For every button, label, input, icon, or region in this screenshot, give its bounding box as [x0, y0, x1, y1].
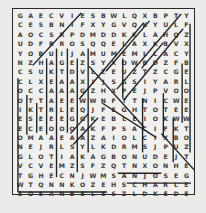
grid-letter[interactable]: K: [88, 124, 98, 133]
grid-letter[interactable]: N: [15, 142, 25, 151]
grid-letter[interactable]: E: [181, 67, 191, 76]
grid-letter[interactable]: V: [160, 86, 170, 95]
grid-letter[interactable]: O: [150, 171, 160, 180]
grid-letter[interactable]: H: [140, 180, 150, 189]
grid-letter[interactable]: Q: [98, 39, 108, 48]
grid-letter[interactable]: Q: [109, 161, 119, 170]
grid-letter[interactable]: B: [109, 152, 119, 161]
grid-letter[interactable]: E: [109, 105, 119, 114]
grid-letter[interactable]: J: [140, 86, 150, 95]
grid-letter[interactable]: Y: [181, 11, 191, 20]
grid-letter[interactable]: Z: [160, 58, 170, 67]
grid-letter[interactable]: T: [15, 171, 25, 180]
grid-letter[interactable]: A: [77, 49, 87, 58]
grid-letter[interactable]: G: [77, 86, 87, 95]
grid-letter[interactable]: K: [77, 152, 87, 161]
grid-letter[interactable]: J: [98, 77, 108, 86]
grid-letter[interactable]: S: [77, 161, 87, 170]
grid-letter[interactable]: E: [98, 189, 108, 198]
grid-letter[interactable]: N: [57, 20, 67, 29]
grid-letter[interactable]: B: [36, 49, 46, 58]
grid-letter[interactable]: S: [160, 171, 170, 180]
grid-letter[interactable]: N: [129, 161, 139, 170]
grid-letter[interactable]: O: [25, 189, 35, 198]
grid-letter[interactable]: O: [36, 152, 46, 161]
grid-letter[interactable]: Y: [98, 20, 108, 29]
grid-letter[interactable]: L: [140, 49, 150, 58]
grid-letter[interactable]: R: [171, 77, 181, 86]
grid-letter[interactable]: L: [129, 133, 139, 142]
grid-letter[interactable]: A: [77, 133, 87, 142]
grid-letter[interactable]: O: [46, 124, 56, 133]
grid-letter[interactable]: L: [57, 142, 67, 151]
grid-letter[interactable]: S: [129, 77, 139, 86]
grid-letter[interactable]: I: [150, 124, 160, 133]
grid-letter[interactable]: A: [46, 96, 56, 105]
grid-letter[interactable]: D: [150, 152, 160, 161]
grid-letter[interactable]: N: [67, 171, 77, 180]
grid-letter[interactable]: B: [150, 11, 160, 20]
grid-letter[interactable]: E: [171, 171, 181, 180]
grid-letter[interactable]: C: [36, 86, 46, 95]
grid-letter[interactable]: I: [67, 20, 77, 29]
grid-letter[interactable]: E: [46, 114, 56, 123]
grid-letter[interactable]: W: [88, 171, 98, 180]
grid-letter[interactable]: C: [129, 180, 139, 189]
grid-letter[interactable]: L: [171, 20, 181, 29]
grid-letter[interactable]: V: [119, 20, 129, 29]
grid-letter[interactable]: W: [181, 114, 191, 123]
grid-letter[interactable]: X: [77, 77, 87, 86]
grid-letter[interactable]: C: [15, 20, 25, 29]
grid-letter[interactable]: E: [181, 105, 191, 114]
grid-letter[interactable]: E: [77, 11, 87, 20]
grid-letter[interactable]: X: [36, 77, 46, 86]
grid-letter[interactable]: A: [36, 133, 46, 142]
grid-letter[interactable]: Z: [25, 58, 35, 67]
grid-letter[interactable]: Z: [119, 189, 129, 198]
grid-letter[interactable]: T: [181, 152, 191, 161]
grid-letter[interactable]: Z: [181, 30, 191, 39]
grid-letter[interactable]: C: [25, 86, 35, 95]
grid-letter[interactable]: S: [36, 20, 46, 29]
grid-letter[interactable]: R: [46, 105, 56, 114]
grid-letter[interactable]: Z: [88, 133, 98, 142]
grid-letter[interactable]: L: [88, 189, 98, 198]
grid-letter[interactable]: K: [67, 180, 77, 189]
grid-letter[interactable]: T: [46, 152, 56, 161]
grid-letter[interactable]: S: [88, 11, 98, 20]
grid-letter[interactable]: X: [140, 39, 150, 48]
grid-letter[interactable]: I: [150, 96, 160, 105]
grid-letter[interactable]: P: [67, 30, 77, 39]
grid-letter[interactable]: E: [171, 105, 181, 114]
grid-letter[interactable]: L: [57, 105, 67, 114]
grid-letter[interactable]: H: [36, 58, 46, 67]
grid-letter[interactable]: N: [129, 171, 139, 180]
grid-letter[interactable]: K: [129, 30, 139, 39]
grid-letter[interactable]: A: [150, 30, 160, 39]
grid-letter[interactable]: P: [150, 86, 160, 95]
grid-letter[interactable]: E: [119, 49, 129, 58]
grid-letter[interactable]: H: [160, 30, 170, 39]
grid-letter[interactable]: O: [181, 133, 191, 142]
grid-letter[interactable]: N: [46, 180, 56, 189]
grid-letter[interactable]: M: [129, 49, 139, 58]
grid-letter[interactable]: S: [140, 142, 150, 151]
grid-letter[interactable]: L: [88, 142, 98, 151]
grid-letter[interactable]: R: [46, 142, 56, 151]
grid-letter[interactable]: N: [140, 96, 150, 105]
grid-letter[interactable]: A: [67, 77, 77, 86]
grid-letter[interactable]: F: [77, 20, 87, 29]
grid-letter[interactable]: P: [109, 124, 119, 133]
grid-letter[interactable]: G: [119, 77, 129, 86]
grid-letter[interactable]: I: [67, 11, 77, 20]
grid-letter[interactable]: E: [109, 39, 119, 48]
grid-letter[interactable]: F: [88, 161, 98, 170]
grid-letter[interactable]: I: [57, 49, 67, 58]
grid-letter[interactable]: Y: [15, 49, 25, 58]
grid-letter[interactable]: S: [25, 114, 35, 123]
grid-letter[interactable]: X: [160, 133, 170, 142]
grid-letter[interactable]: E: [36, 114, 46, 123]
grid-letter[interactable]: B: [140, 58, 150, 67]
grid-letter[interactable]: J: [36, 142, 46, 151]
grid-letter[interactable]: R: [57, 30, 67, 39]
